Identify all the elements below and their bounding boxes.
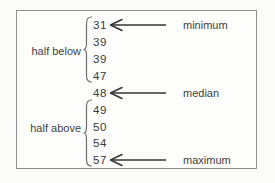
data-value: 47: [93, 68, 115, 84]
arrow-left-icon-maximum: [109, 153, 167, 167]
arrow-left-icon-minimum: [109, 18, 167, 32]
arrow-left-icon-median: [109, 86, 167, 100]
group-label-half-below: half below: [18, 43, 81, 59]
brace-icon-half-above: [83, 99, 93, 167]
data-value: 54: [93, 135, 115, 151]
data-value: 39: [93, 34, 115, 50]
annotation-maximum: maximum: [183, 152, 231, 168]
annotation-minimum: minimum: [183, 17, 228, 33]
annotation-median: median: [183, 85, 219, 101]
group-label-half-above: half above: [18, 120, 81, 136]
data-value: 49: [93, 102, 115, 118]
data-value: 39: [93, 51, 115, 67]
diagram-page: 31 39 39 47 48 49 50 54 57 half below ha…: [0, 0, 275, 183]
brace-icon-half-below: [83, 16, 93, 83]
data-value: 50: [93, 119, 115, 135]
